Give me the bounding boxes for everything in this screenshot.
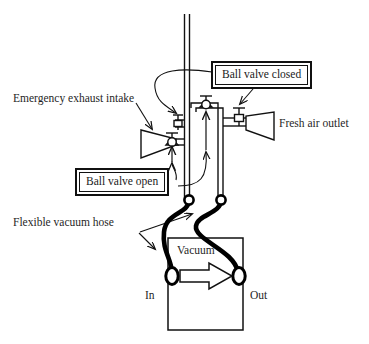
label-flexible-vacuum-hose: Flexible vacuum hose [13,217,114,229]
label-out: Out [250,290,267,302]
diagram-canvas: Emergency exhaust intake Fresh air outle… [0,0,369,344]
valve-top-open[interactable] [200,96,212,109]
leader-valve-open-right [178,152,206,186]
label-fresh-air-outlet: Fresh air outlet [279,118,349,130]
leader-emergency-intake [136,103,152,129]
hose-collars [184,195,225,204]
vertical-duct [185,14,190,200]
schematic-svg [0,0,369,344]
leader-hose-lower [139,233,155,249]
valve-left-horn-open[interactable] [166,133,178,146]
leader-valve-closed-right [240,89,253,104]
valve-mid-closed[interactable] [173,115,183,130]
right-horn [240,112,274,140]
callout-ball-valve-open-text: Ball valve open [79,172,165,192]
leader-valve-open-left [172,163,176,180]
label-vacuum: Vacuum [177,245,215,257]
callout-ball-valve-closed-text: Ball valve closed [215,65,308,85]
callout-ball-valve-closed: Ball valve closed [211,61,312,89]
label-in: In [145,290,155,302]
callout-ball-valve-open: Ball valve open [75,168,169,196]
valve-right-horn-closed[interactable] [233,108,245,126]
label-emergency-exhaust-intake: Emergency exhaust intake [13,93,134,105]
